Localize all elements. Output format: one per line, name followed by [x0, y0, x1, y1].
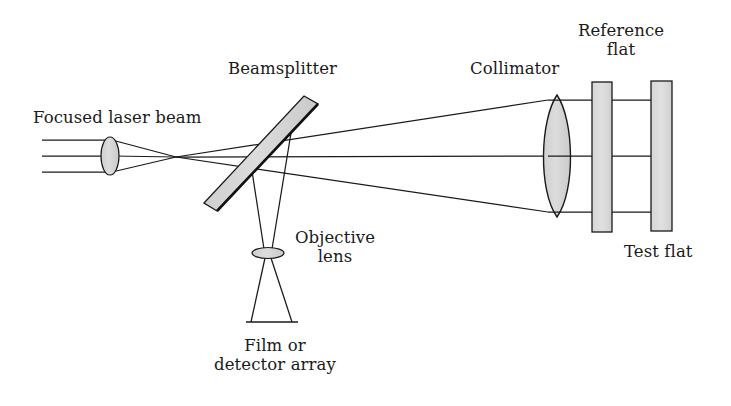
figure-canvas: Focused laser beam Beamsplitter Collimat…: [0, 0, 731, 406]
label-collimator: Collimator: [470, 59, 559, 78]
label-reference-flat: Reference flat: [576, 21, 666, 60]
label-focused-laser-beam: Focused laser beam: [33, 108, 201, 127]
input-focusing-lens: [101, 137, 119, 175]
beamsplitter: [204, 96, 318, 211]
input-parallel-rays: [42, 140, 108, 172]
objective-lens: [252, 248, 284, 259]
reference-flat: [592, 82, 612, 232]
label-test-flat: Test flat: [624, 242, 693, 261]
label-beamsplitter: Beamsplitter: [228, 59, 337, 78]
label-film-or-detector-array: Film or detector array: [205, 336, 345, 375]
converging-rays-to-focus: [112, 140, 176, 172]
label-objective-lens: Objective lens: [290, 228, 380, 267]
optical-ray-diagram: [0, 0, 731, 406]
test-flat: [651, 81, 672, 231]
